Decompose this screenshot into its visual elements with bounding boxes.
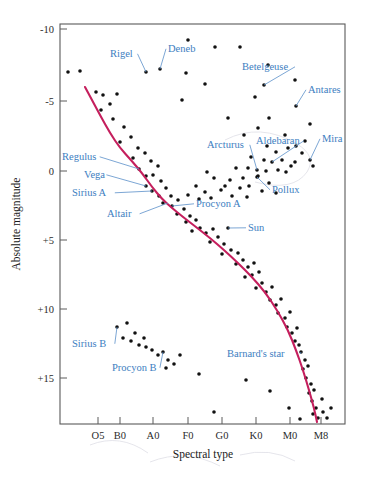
star-name-label: Sirius A bbox=[72, 187, 107, 198]
y-tick-label: +15 bbox=[38, 373, 54, 384]
star-dot bbox=[188, 214, 192, 218]
star-dot bbox=[143, 151, 147, 155]
star-dot bbox=[238, 186, 242, 190]
star-dot bbox=[172, 362, 176, 366]
y-axis-ticks: -10-50+5+10+15 bbox=[38, 24, 67, 384]
star-dot bbox=[164, 186, 168, 190]
star-dot bbox=[308, 122, 312, 126]
star-dot bbox=[150, 348, 154, 352]
star-dot bbox=[329, 406, 333, 410]
star-dot bbox=[267, 181, 271, 185]
star-dot bbox=[144, 345, 148, 349]
star-dot bbox=[268, 389, 272, 393]
star-dot bbox=[297, 343, 301, 347]
star-dot bbox=[205, 170, 209, 174]
star-name-label: Mira bbox=[322, 133, 343, 144]
star-dot bbox=[169, 194, 173, 198]
star-dot bbox=[279, 297, 283, 301]
star-name-label: Regulus bbox=[62, 151, 96, 162]
star-dot bbox=[238, 45, 242, 49]
x-tick-label: K0 bbox=[250, 430, 263, 441]
annotation-leader-line bbox=[115, 327, 117, 344]
star-dot bbox=[236, 251, 240, 255]
star-dot bbox=[203, 190, 207, 194]
x-tick-label: G0 bbox=[216, 430, 229, 441]
y-axis-title: Absolute magnitude bbox=[10, 178, 23, 271]
star-name-label: Arcturus bbox=[207, 139, 244, 150]
star-name-label: Vega bbox=[84, 169, 105, 180]
x-tick-label: O5 bbox=[92, 430, 105, 441]
star-dot bbox=[229, 248, 233, 252]
star-dot bbox=[99, 108, 103, 112]
star-dot bbox=[244, 378, 248, 382]
star-name-label: Deneb bbox=[168, 43, 195, 54]
star-name-label: Pollux bbox=[272, 184, 300, 195]
star-name-label: Sirius B bbox=[72, 338, 106, 349]
y-tick-label: 0 bbox=[49, 166, 54, 177]
star-dot bbox=[256, 126, 260, 130]
star-dot bbox=[142, 336, 146, 340]
star-dot bbox=[129, 135, 133, 139]
star-dot bbox=[131, 156, 135, 160]
star-dot bbox=[122, 125, 126, 129]
star-dot bbox=[286, 146, 290, 150]
star-dot bbox=[129, 339, 133, 343]
star-dot bbox=[182, 207, 186, 211]
star-dot bbox=[212, 410, 216, 414]
star-dot bbox=[257, 270, 261, 274]
hr-diagram-figure: -10-50+5+10+15 O5B0A0F0G0K0M0M8 RigelDen… bbox=[0, 0, 365, 487]
star-dot bbox=[283, 316, 287, 320]
star-name-label: Procyon B bbox=[112, 362, 157, 373]
annotation-leader-line bbox=[138, 54, 147, 72]
star-dot bbox=[276, 168, 280, 172]
star-dot bbox=[226, 116, 230, 120]
x-tick-label: B0 bbox=[114, 430, 126, 441]
star-dot bbox=[249, 155, 253, 159]
star-dot bbox=[194, 184, 198, 188]
star-name-label: Aldebaran bbox=[256, 135, 300, 146]
star-dot bbox=[184, 71, 188, 75]
annotation-leader-line bbox=[160, 352, 163, 368]
star-dot bbox=[176, 198, 180, 202]
scan-artifacts bbox=[90, 132, 310, 466]
star-dot bbox=[290, 331, 294, 335]
star-name-label: Betelgeuse bbox=[242, 61, 288, 72]
hr-diagram-svg: -10-50+5+10+15 O5B0A0F0G0K0M0M8 RigelDen… bbox=[0, 0, 365, 487]
star-dot bbox=[149, 159, 153, 163]
star-dot bbox=[186, 38, 190, 42]
star-dot bbox=[284, 170, 288, 174]
star-dot bbox=[320, 397, 324, 401]
star-dot bbox=[228, 178, 232, 182]
star-dot bbox=[241, 258, 245, 262]
star-dot bbox=[295, 326, 299, 330]
star-dot bbox=[219, 188, 223, 192]
star-dot bbox=[306, 364, 310, 368]
star-dot bbox=[293, 160, 297, 164]
star-dot bbox=[293, 78, 297, 82]
star-dot bbox=[125, 321, 129, 325]
star-dot bbox=[180, 98, 184, 102]
star-dot bbox=[118, 140, 122, 144]
star-name-label: Antares bbox=[308, 84, 341, 95]
star-dot bbox=[66, 70, 70, 74]
x-tick-label: A0 bbox=[147, 430, 160, 441]
star-dot bbox=[303, 358, 307, 362]
star-dot bbox=[253, 95, 257, 99]
annotation-leader-line bbox=[140, 203, 168, 214]
x-tick-label: M0 bbox=[283, 430, 298, 441]
star-dot bbox=[260, 189, 264, 193]
star-dot bbox=[220, 252, 224, 256]
star-dot bbox=[178, 353, 182, 357]
star-dot bbox=[241, 176, 245, 180]
star-dot bbox=[156, 164, 160, 168]
star-dot bbox=[137, 343, 141, 347]
star-dot bbox=[234, 166, 238, 170]
x-axis-title: Spectral type bbox=[173, 448, 233, 461]
star-dot bbox=[115, 92, 119, 96]
star-dot bbox=[222, 242, 226, 246]
plot-frame bbox=[60, 24, 345, 424]
star-dot bbox=[151, 173, 155, 177]
star-dot bbox=[254, 286, 258, 290]
star-dot bbox=[287, 406, 291, 410]
star-name-label: Sun bbox=[248, 222, 265, 233]
